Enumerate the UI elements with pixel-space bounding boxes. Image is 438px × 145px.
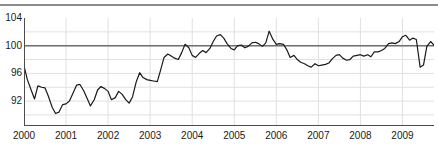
x-tick-label-2000: 2000 [7, 130, 41, 142]
x-tick-label-2009: 2009 [385, 130, 419, 142]
x-tick-label-2004: 2004 [175, 130, 209, 142]
grid-lines [24, 32, 434, 115]
x-tick-label-2007: 2007 [301, 130, 335, 142]
x-tick-label-2006: 2006 [259, 130, 293, 142]
x-tick-label-2003: 2003 [133, 130, 167, 142]
x-tick-label-2001: 2001 [49, 130, 83, 142]
vertical-grid-lines [66, 18, 402, 126]
x-tick-label-2002: 2002 [91, 130, 125, 142]
plot-area [24, 18, 434, 126]
header-divider [0, 4, 438, 6]
chart-figure: 1041009692 20002001200220032004200520062… [0, 0, 438, 145]
x-tick-label-2008: 2008 [343, 130, 377, 142]
y-tick-label-100: 100 [0, 41, 22, 51]
y-tick-label-96: 96 [0, 68, 22, 78]
x-axis-tick-labels: 2000200120022003200420052006200720082009 [24, 130, 434, 144]
axis-lines [24, 18, 434, 126]
x-tick-label-2005: 2005 [217, 130, 251, 142]
y-tick-label-104: 104 [0, 13, 22, 23]
line-chart-svg [24, 18, 434, 126]
y-tick-label-92: 92 [0, 96, 22, 106]
y-axis-tick-labels: 1041009692 [0, 18, 22, 126]
